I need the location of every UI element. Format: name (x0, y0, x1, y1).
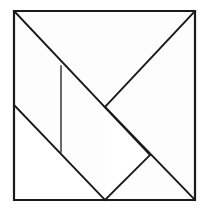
tangram-figure (0, 0, 207, 213)
tangram-diagram (0, 0, 207, 213)
